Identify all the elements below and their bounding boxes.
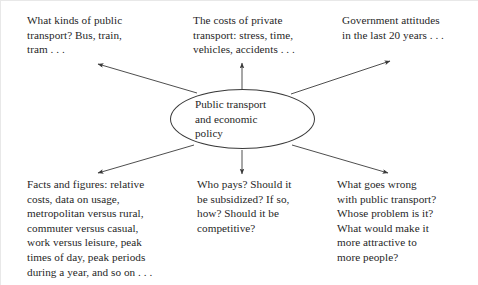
center-node: Public transport and economic policy xyxy=(170,89,315,149)
branch-node-top-right: Government attitudes in the last 20 year… xyxy=(342,13,474,42)
arrow-to-bottom-right xyxy=(292,145,388,173)
branch-node-bottom-center: Who pays? Should it be subsidized? If so… xyxy=(197,177,327,235)
branch-node-top-center: The costs of private transport: stress, … xyxy=(193,13,335,57)
branch-node-bottom-right: What goes wrong with public transport? W… xyxy=(337,177,475,265)
branch-node-bottom-left: Facts and figures: relative costs, data … xyxy=(27,177,202,279)
arrow-to-bottom-left xyxy=(98,145,194,173)
diagram-canvas: What kinds of public transport? Bus, tra… xyxy=(0,0,478,285)
center-node-label: Public transport and economic policy xyxy=(195,97,307,141)
branch-node-top-left: What kinds of public transport? Bus, tra… xyxy=(27,13,179,57)
